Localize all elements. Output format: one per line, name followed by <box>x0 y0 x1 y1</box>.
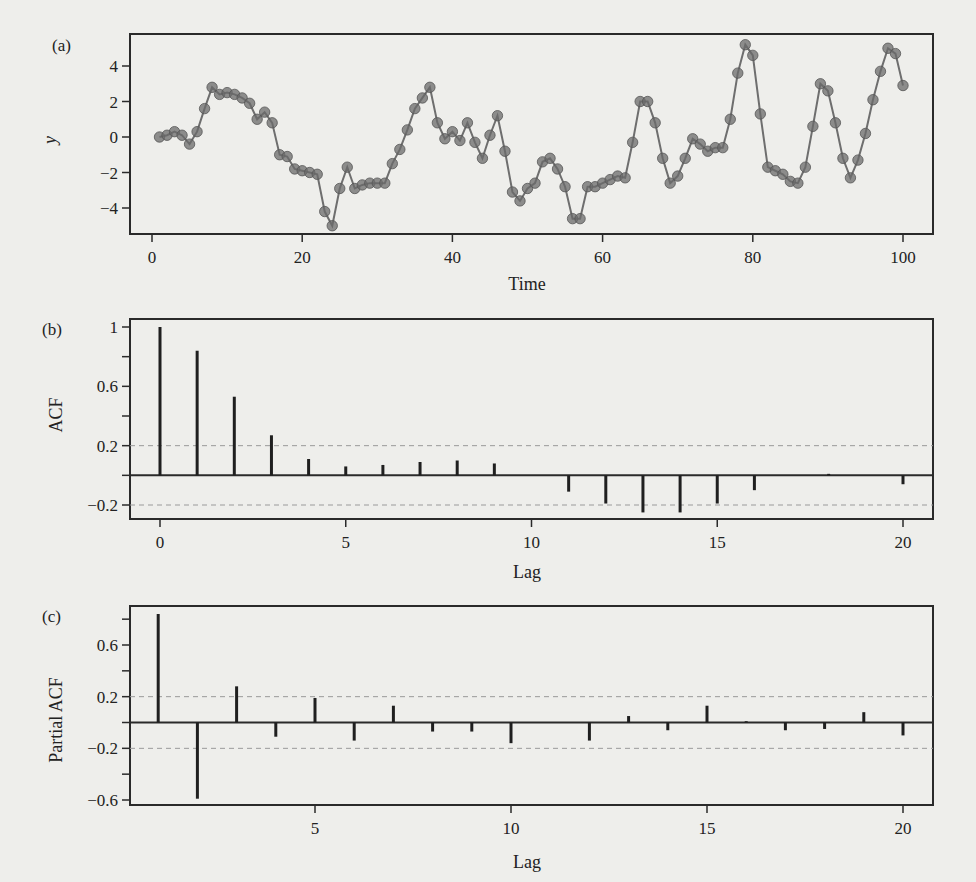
plot-frame-c <box>130 606 933 805</box>
y-tick-label: −4 <box>100 199 119 218</box>
y-axis-title-c: Partial ACF <box>46 677 66 763</box>
x-tick-label: 20 <box>895 819 912 838</box>
data-point <box>868 95 878 105</box>
data-point <box>642 96 652 106</box>
data-point <box>432 118 442 128</box>
time-series-line <box>154 40 908 231</box>
x-tick-label: 0 <box>156 533 165 552</box>
data-point <box>507 187 517 197</box>
panel-label-c: (c) <box>42 607 61 626</box>
data-point <box>845 173 855 183</box>
plot-frame-a <box>130 34 933 234</box>
data-point <box>335 183 345 193</box>
panel-a-time-series: (a) −4−2024 020406080100 y Time <box>40 34 933 294</box>
data-point <box>748 50 758 60</box>
y-tick-label: 2 <box>110 93 119 112</box>
data-point <box>898 80 908 90</box>
x-tick-label: 15 <box>709 533 726 552</box>
series-line <box>160 45 903 226</box>
plot-frame-b <box>130 319 933 519</box>
data-point <box>560 182 570 192</box>
data-point <box>380 178 390 188</box>
figure: (a) −4−2024 020406080100 y Time (b) −0.2… <box>0 0 976 882</box>
data-point <box>470 137 480 147</box>
y-axis-c: −0.6−0.20.20.6 <box>87 619 130 810</box>
y-tick-label: −0.2 <box>87 739 118 758</box>
data-point <box>530 178 540 188</box>
data-point <box>680 153 690 163</box>
data-point <box>259 107 269 117</box>
y-tick-label: 0.6 <box>97 636 118 655</box>
data-point <box>455 135 465 145</box>
data-point <box>890 48 900 58</box>
data-point <box>447 126 457 136</box>
y-tick-label: 0.6 <box>97 377 118 396</box>
data-point <box>718 142 728 152</box>
data-point <box>500 146 510 156</box>
x-tick-label: 5 <box>311 819 320 838</box>
data-point <box>342 162 352 172</box>
data-point <box>620 173 630 183</box>
x-tick-label: 20 <box>294 248 311 267</box>
data-point <box>312 169 322 179</box>
x-tick-label: 20 <box>895 533 912 552</box>
data-point <box>477 153 487 163</box>
data-point <box>627 137 637 147</box>
data-point <box>733 68 743 78</box>
y-axis-b: −0.20.20.61 <box>87 318 130 515</box>
x-tick-label: 10 <box>523 533 540 552</box>
data-point <box>417 93 427 103</box>
data-point <box>830 118 840 128</box>
y-axis-title-b: ACF <box>46 397 66 432</box>
x-axis-c: 5101520 <box>311 805 912 838</box>
y-tick-label: 0.2 <box>97 437 118 456</box>
data-point <box>875 66 885 76</box>
data-point <box>838 153 848 163</box>
y-tick-label: 0 <box>110 128 119 147</box>
panel-c-pacf: (c) −0.6−0.20.20.6 5101520 Partial ACF L… <box>42 606 933 872</box>
data-point <box>387 158 397 168</box>
data-point <box>395 144 405 154</box>
acf-spikes <box>130 327 933 512</box>
data-point <box>740 40 750 50</box>
data-point <box>199 103 209 113</box>
x-tick-label: 80 <box>744 248 761 267</box>
x-tick-label: 10 <box>503 819 520 838</box>
data-point <box>485 130 495 140</box>
data-point <box>545 153 555 163</box>
y-tick-label: −0.2 <box>87 496 118 515</box>
x-axis-a: 020406080100 <box>148 234 916 267</box>
data-point <box>755 109 765 119</box>
data-point <box>800 162 810 172</box>
data-point <box>673 171 683 181</box>
data-point <box>657 153 667 163</box>
data-point <box>282 151 292 161</box>
y-tick-label: 4 <box>110 57 119 76</box>
x-tick-label: 40 <box>444 248 461 267</box>
data-point <box>184 139 194 149</box>
data-point <box>402 125 412 135</box>
x-tick-label: 0 <box>148 248 157 267</box>
y-axis-title-a: y <box>40 136 60 146</box>
y-tick-label: −2 <box>100 164 118 183</box>
x-axis-title-a: Time <box>508 274 545 294</box>
data-point <box>327 221 337 231</box>
pacf-spikes <box>130 614 933 799</box>
data-point <box>575 213 585 223</box>
data-point <box>853 155 863 165</box>
x-tick-label: 60 <box>594 248 611 267</box>
data-point <box>425 82 435 92</box>
data-point <box>808 121 818 131</box>
panel-label-b: (b) <box>42 320 62 339</box>
data-point <box>244 98 254 108</box>
x-tick-label: 15 <box>699 819 716 838</box>
panel-label-a: (a) <box>52 36 71 55</box>
data-point <box>823 86 833 96</box>
data-point <box>793 178 803 188</box>
x-axis-title-b: Lag <box>513 562 541 582</box>
data-point <box>177 130 187 140</box>
y-tick-label: 1 <box>110 318 119 337</box>
y-tick-label: −0.6 <box>87 791 118 810</box>
data-point <box>320 206 330 216</box>
data-point <box>650 118 660 128</box>
